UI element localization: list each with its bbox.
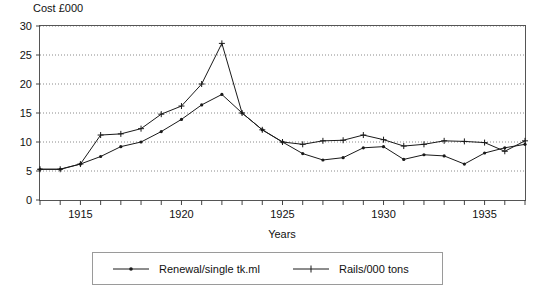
legend-label: Rails/000 tons — [339, 263, 409, 276]
gridlines — [40, 26, 525, 171]
y-tick-label: 10 — [20, 136, 32, 148]
data-point — [360, 132, 366, 138]
data-point — [422, 153, 425, 156]
data-point — [482, 140, 488, 146]
y-tick-label: 15 — [20, 107, 32, 119]
x-tick-label: 1925 — [270, 208, 294, 220]
data-point — [463, 162, 466, 165]
legend-entry-1[interactable]: Rails/000 tons — [291, 262, 409, 276]
y-tick-label: 25 — [20, 49, 32, 61]
y-tick-label: 30 — [20, 20, 32, 32]
x-axis-title: Years — [268, 228, 296, 240]
data-point — [402, 158, 405, 161]
data-point — [401, 143, 407, 149]
data-point — [180, 118, 183, 121]
data-point — [443, 154, 446, 157]
data-point — [461, 138, 467, 144]
x-tick-label: 1920 — [169, 208, 193, 220]
data-point — [77, 161, 83, 167]
data-point — [119, 145, 122, 148]
data-series-layer — [37, 40, 528, 172]
data-point — [219, 40, 225, 46]
data-point — [98, 132, 104, 138]
data-point — [502, 148, 508, 154]
data-point — [301, 152, 304, 155]
x-axis-tick-labels: 19151920192519301935 — [68, 208, 497, 220]
chart-plot-area: 051015202530 19151920192519301935 Years — [0, 0, 533, 248]
data-point — [522, 138, 528, 144]
data-point — [321, 158, 324, 161]
x-tick-label: 1935 — [472, 208, 496, 220]
x-tick-label: 1915 — [68, 208, 92, 220]
y-tick-label: 5 — [26, 165, 32, 177]
data-point — [340, 137, 346, 143]
data-point — [99, 155, 102, 158]
data-point — [441, 138, 447, 144]
y-axis-tick-labels: 051015202530 — [20, 20, 32, 206]
legend-label: Renewal/single tk.ml — [159, 263, 260, 276]
chart-figure: Cost £000 051015202530 19151920192519301… — [0, 0, 533, 299]
legend-dot-marker-icon — [111, 263, 151, 275]
y-tick-label: 20 — [20, 78, 32, 90]
data-point — [382, 145, 385, 148]
data-point — [362, 146, 365, 149]
y-tick-label: 0 — [26, 194, 32, 206]
chart-legend: Renewal/single tk.mlRails/000 tons — [92, 252, 443, 285]
legend-plus-marker-icon — [291, 263, 331, 275]
legend-entry-0[interactable]: Renewal/single tk.ml — [111, 262, 260, 276]
data-point — [483, 151, 486, 154]
data-point — [160, 130, 163, 133]
data-point — [139, 140, 142, 143]
data-point — [342, 156, 345, 159]
data-point — [200, 103, 203, 106]
x-tick-label: 1930 — [371, 208, 395, 220]
data-point — [280, 139, 286, 145]
series-line-0 — [40, 94, 525, 169]
data-point — [220, 93, 223, 96]
data-point — [118, 131, 124, 137]
data-point — [320, 138, 326, 144]
